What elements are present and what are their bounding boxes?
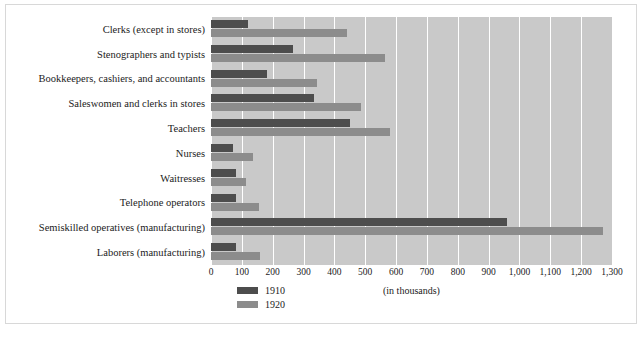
bar-1910: [211, 218, 507, 226]
legend-item[interactable]: 1910: [237, 284, 285, 297]
bar-1910: [211, 194, 236, 202]
category-label: Nurses: [6, 141, 205, 166]
gridline: [612, 17, 613, 265]
category-label-text: Saleswomen and clerks in stores: [69, 98, 205, 109]
category-label: Laborers (manufacturing): [6, 240, 205, 265]
category-label-text: Stenographers and typists: [97, 49, 205, 60]
category-label: Bookkeepers, cashiers, and accountants: [6, 67, 205, 92]
bar-1920: [211, 227, 603, 235]
x-tick-label: 200: [266, 267, 280, 277]
x-tick-label: 1,200: [570, 267, 591, 277]
bar-group: [211, 67, 612, 92]
bar-1920: [211, 203, 259, 211]
figure: Clerks (except in stores)Stenographers a…: [0, 0, 644, 340]
legend: 19101920: [237, 284, 285, 312]
legend-swatch: [237, 287, 258, 294]
x-tick-label: 900: [481, 267, 495, 277]
category-label: Teachers: [6, 116, 205, 141]
legend-item[interactable]: 1920: [237, 298, 285, 311]
category-label-text: Nurses: [176, 148, 205, 159]
bar-1920: [211, 128, 390, 136]
category-label-text: Bookkeepers, cashiers, and accountants: [39, 73, 205, 84]
category-label-text: Telephone operators: [120, 197, 205, 208]
bar-1910: [211, 70, 267, 78]
x-axis-tick-labels: 01002003004005006007008009001,0001,1001,…: [211, 267, 612, 281]
x-tick-label: 100: [235, 267, 249, 277]
bar-group: [211, 116, 612, 141]
bar-1910: [211, 45, 293, 53]
bar-group: [211, 91, 612, 116]
category-label-text: Waitresses: [160, 173, 205, 184]
bar-1910: [211, 94, 314, 102]
bar-1920: [211, 103, 361, 111]
bar-group: [211, 141, 612, 166]
bar-1910: [211, 243, 236, 251]
figure-caption: [6, 330, 426, 339]
legend-label: 1920: [265, 299, 285, 310]
category-label: Telephone operators: [6, 191, 205, 216]
category-label-text: Semiskilled operatives (manufacturing): [39, 222, 205, 233]
x-tick-label: 700: [420, 267, 434, 277]
x-tick-label: 600: [389, 267, 403, 277]
category-label: Stenographers and typists: [6, 42, 205, 67]
bar-1920: [211, 54, 385, 62]
x-tick-label: 1,100: [540, 267, 561, 277]
bar-1920: [211, 178, 246, 186]
bar-1910: [211, 169, 236, 177]
plot-area: [211, 17, 612, 265]
category-label: Clerks (except in stores): [6, 17, 205, 42]
bar-group: [211, 215, 612, 240]
x-tick-label: 300: [296, 267, 310, 277]
legend-label: 1910: [265, 285, 285, 296]
bar-1920: [211, 252, 260, 260]
chart-frame: Clerks (except in stores)Stenographers a…: [5, 4, 637, 324]
x-tick-label: 1,300: [601, 267, 622, 277]
category-label-text: Laborers (manufacturing): [97, 247, 205, 258]
x-tick-label: 400: [327, 267, 341, 277]
bar-1920: [211, 153, 253, 161]
bar-1920: [211, 29, 347, 37]
bar-group: [211, 191, 612, 216]
bar-1910: [211, 20, 248, 28]
category-label: Waitresses: [6, 166, 205, 191]
bar-1920: [211, 79, 317, 87]
x-tick-label: 500: [358, 267, 372, 277]
legend-swatch: [237, 301, 258, 308]
x-tick-label: 1,000: [509, 267, 530, 277]
bar-group: [211, 17, 612, 42]
bar-1910: [211, 119, 350, 127]
category-label: Saleswomen and clerks in stores: [6, 91, 205, 116]
bar-1910: [211, 144, 233, 152]
bar-group: [211, 42, 612, 67]
bar-group: [211, 166, 612, 191]
x-tick-label: 800: [451, 267, 465, 277]
bar-group: [211, 240, 612, 265]
category-label: Semiskilled operatives (manufacturing): [6, 215, 205, 240]
x-tick-label: 0: [209, 267, 214, 277]
category-label-text: Clerks (except in stores): [103, 24, 205, 35]
category-label-text: Teachers: [168, 123, 205, 134]
